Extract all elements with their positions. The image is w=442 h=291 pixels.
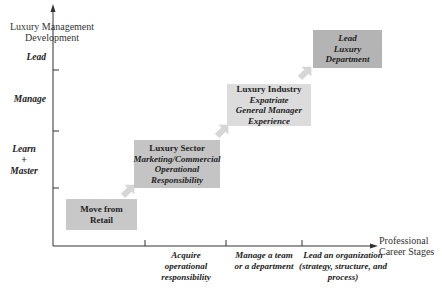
box-title: Luxury Industry (237, 84, 302, 95)
y-axis-title: Luxury Management Development (4, 21, 100, 43)
x-stage-line: Manage a team (226, 250, 302, 261)
stage-box-move-from-retail: Move from Retail (66, 199, 137, 230)
x-axis-title: Professional Career Stages (379, 235, 441, 257)
box-title: Retail (90, 215, 113, 226)
box-subtitle: Department (326, 54, 370, 65)
box-subtitle: Operational (155, 164, 200, 175)
y-level-line: + (6, 155, 42, 166)
y-level-learn-master: Learn + Master (6, 144, 42, 177)
box-subtitle: Luxury (334, 44, 362, 55)
y-axis-title-line: Luxury Management (4, 21, 100, 32)
box-title: Luxury Sector (149, 143, 205, 154)
x-stage-line: operational (148, 261, 224, 272)
x-axis-arrowhead-icon (370, 244, 378, 249)
y-axis-title-line: Development (4, 32, 100, 43)
x-stage-line: Acquire (148, 250, 224, 261)
x-stage-manage: Manage a team or a department (226, 250, 302, 272)
y-level-line: Learn (6, 144, 42, 155)
x-stage-line: responsibility (148, 272, 224, 283)
x-stage-lead-organization: Lead an organization (strategy, structur… (298, 250, 388, 283)
stage-box-lead-luxury-department: Lead Luxury Department (313, 30, 382, 68)
box-subtitle: Experience (248, 116, 290, 127)
career-diagram: Luxury Management Development Lead Manag… (0, 0, 442, 291)
y-axis-arrowhead-icon (51, 4, 56, 12)
box-subtitle: General Manager (236, 105, 302, 116)
x-axis-title-line: Career Stages (379, 246, 441, 257)
y-level-manage: Manage (6, 94, 46, 105)
stage-box-luxury-industry: Luxury Industry Expatriate General Manag… (227, 84, 311, 126)
x-stage-line: Lead an organization (298, 250, 388, 261)
box-subtitle: Responsibility (151, 175, 203, 186)
x-stage-line: process) (298, 272, 388, 283)
stage-box-luxury-sector: Luxury Sector Marketing/Commercial Opera… (134, 140, 220, 188)
x-axis-title-line: Professional (379, 235, 441, 246)
box-subtitle: Marketing/Commercial (134, 154, 221, 165)
x-stage-acquire: Acquire operational responsibility (148, 250, 224, 283)
box-title: Move from (80, 204, 123, 215)
x-stage-line: or a department (226, 261, 302, 272)
y-level-lead: Lead (6, 52, 46, 63)
box-subtitle: Expatriate (249, 95, 288, 106)
x-stage-line: (strategy, structure, and (298, 261, 388, 272)
box-subtitle: Lead (338, 33, 357, 44)
y-level-line: Master (6, 166, 42, 177)
